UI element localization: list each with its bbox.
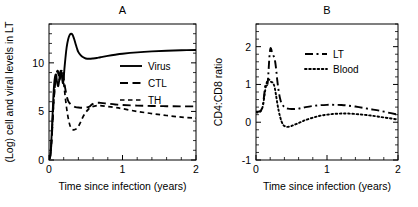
plot-frame [256,24,398,160]
legend-label-ctl: CTL [148,78,167,89]
series-curve-th [49,71,196,160]
y-axis-title: CD4:CD8 ratio [212,58,224,126]
y-tick-label: 2 [245,41,251,53]
x-axis-title: Time since infection (years) [263,180,391,192]
y-tick-label: 10 [32,57,44,69]
legend-label-virus: Virus [148,61,171,72]
y-axis-title: (Log) cell and viral levels in LT [3,21,15,163]
x-tick-label: 0 [46,163,52,175]
plot-frame [49,24,196,160]
series-group [256,48,398,127]
panel-a-plot: A0120510Time since infection (years)(Log… [0,0,209,207]
series-curve-blood [256,79,398,127]
panel-b: B012-1012Time since infection (years)CD4… [209,0,418,207]
series-group [49,34,196,160]
legend-label-th: TH [148,95,161,106]
y-tick-label: 0 [245,116,251,128]
panel-a: A0120510Time since infection (years)(Log… [0,0,209,207]
x-tick-label: 2 [193,163,199,175]
panel-b-plot: B012-1012Time since infection (years)CD4… [209,0,418,207]
x-tick-label: 0 [253,163,259,175]
legend: LTBlood [305,49,359,75]
series-curve-virus [49,34,196,160]
y-tick-label: 0 [38,154,44,166]
legend: VirusCTLTH [120,61,171,106]
x-tick-label: 1 [120,163,126,175]
figure-container: A0120510Time since infection (years)(Log… [0,0,418,207]
y-tick-label: 1 [245,78,251,90]
legend-label-blood: Blood [333,64,359,75]
x-axis-title: Time since infection (years) [59,180,187,192]
panel-title: B [323,4,330,16]
y-tick-label: 5 [38,105,44,117]
y-tick-label: -1 [242,154,251,166]
legend-label-lt: LT [333,49,344,60]
x-tick-label: 2 [395,163,401,175]
x-tick-label: 1 [324,163,330,175]
panel-title: A [119,4,127,16]
